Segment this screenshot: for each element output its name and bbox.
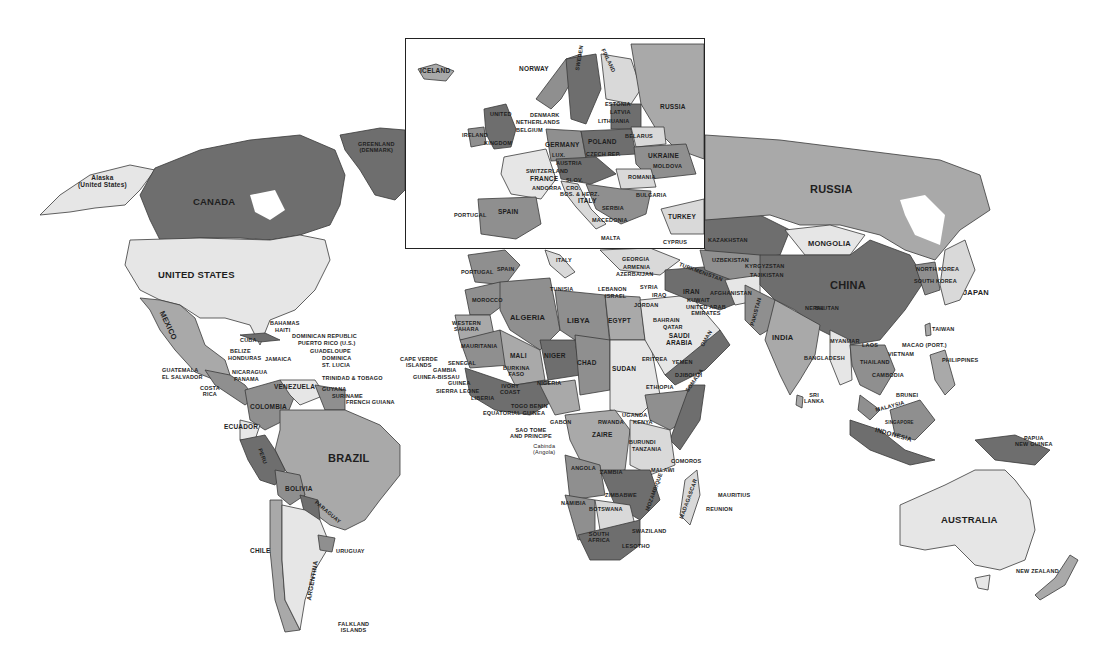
label-sri-lanka-2: LANKA	[804, 399, 824, 405]
label-iraq: IRAQ	[652, 293, 667, 299]
label-yemen: YEMEN	[672, 360, 693, 366]
label-bahrain: BAHRAIN	[653, 318, 680, 324]
label-swaziland: SWAZILAND	[632, 529, 667, 535]
label-ivory-coast: IVORY COAST	[500, 384, 520, 395]
label-inset-ukraine: UKRAINE	[648, 153, 679, 160]
label-chile: CHILE	[250, 548, 271, 555]
label-inset-iceland: ICELAND	[420, 68, 450, 75]
label-syria: SYRIA	[640, 285, 658, 291]
label-india: INDIA	[772, 334, 793, 342]
label-ecuador: ECUADOR	[224, 424, 258, 431]
label-sao-tome: SAO TOME AND PRINCIPE	[510, 428, 552, 439]
label-inset-ireland: IRELAND	[462, 133, 488, 139]
label-namibia: NAMIBIA	[561, 501, 586, 507]
inset-baltics	[611, 104, 641, 129]
label-guatemala: GUATEMALA	[162, 368, 199, 374]
label-saudi-arabia: SAUDI ARABIA	[666, 333, 692, 346]
label-gabon: GABON	[550, 420, 571, 426]
region-sri-lanka	[796, 395, 803, 408]
label-canada: CANADA	[193, 197, 235, 207]
label-uzbekistan: UZBEKISTAN	[712, 258, 749, 264]
label-inset-latvia: LATVIA	[610, 110, 631, 116]
label-malawi: MALAWI	[651, 468, 675, 474]
label-chad: CHAD	[577, 360, 597, 367]
label-mali: MALI	[510, 353, 527, 360]
label-kazakhstan: KAZAKHSTAN	[708, 238, 748, 244]
label-inset-andorra: ANDORRA	[532, 186, 562, 192]
label-inset-slovenia: SLOV.	[566, 178, 583, 184]
label-burundi: BURUNDI	[629, 440, 656, 446]
label-equatorial-guinea: EQUATORIAL GUINEA	[483, 411, 545, 417]
label-spain: SPAIN	[497, 267, 514, 273]
label-colombia: COLOMBIA	[250, 404, 287, 411]
label-inset-bulgaria: BULGARIA	[636, 193, 667, 199]
label-inset-macedonia: MACEDONIA	[592, 218, 628, 224]
label-egypt: EGYPT	[608, 318, 631, 325]
label-tunisia: TUNISIA	[550, 287, 573, 293]
label-rwanda: RWANDA	[598, 420, 624, 426]
label-bhutan: BHUTAN	[815, 306, 839, 312]
label-inset-germany: GERMANY	[545, 142, 580, 149]
label-south-africa-2: AFRICA	[588, 538, 610, 544]
label-dominican-republic: DOMINICAN REPUBLIC	[292, 334, 357, 340]
label-algeria: ALGERIA	[510, 314, 545, 322]
label-bangladesh: BANGLADESH	[804, 356, 845, 362]
label-south-korea: SOUTH KOREA	[914, 279, 957, 285]
label-greenland: GREENLAND (DENMARK)	[358, 142, 395, 153]
label-inset-netherlands: NETHERLANDS	[516, 120, 560, 126]
label-togo-benin: TOGO BENIN	[511, 404, 548, 410]
label-puerto-rico: PUERTO RICO (U.S.)	[298, 341, 356, 347]
label-honduras: HONDURAS	[228, 356, 261, 362]
label-alaska-sub: (United States)	[78, 182, 127, 189]
label-bolivia: BOLIVIA	[285, 486, 313, 493]
label-alaska: Alaska (United States)	[78, 175, 127, 188]
region-niger	[540, 340, 580, 380]
label-myanmar: MYANMAR	[830, 339, 860, 345]
label-inset-italy: ITALY	[578, 198, 597, 205]
label-qatar: QATAR	[663, 325, 683, 331]
label-mauritius: MAURITIUS	[718, 493, 750, 499]
label-lesotho: LESOTHO	[622, 544, 650, 550]
label-senegal: SENEGAL	[448, 361, 476, 367]
label-inset-moldova: MOLDOVA	[653, 164, 682, 170]
label-united-states: UNITED STATES	[158, 270, 235, 280]
label-inset-france: FRANCE	[530, 176, 558, 183]
label-south-africa: SOUTH AFRICA	[588, 532, 610, 543]
label-australia: AUSTRALIA	[941, 515, 998, 525]
label-singapore: SINGAPORE	[885, 421, 914, 426]
label-nicaragua: NICARAGUA	[232, 370, 267, 376]
label-eritrea: ERITREA	[642, 357, 668, 363]
label-inset-denmark: DENMARK	[530, 113, 560, 119]
region-alaska	[40, 165, 155, 215]
label-falkland: FALKLAND ISLANDS	[338, 622, 369, 633]
label-inset-belarus: BELARUS	[625, 134, 653, 140]
label-botswana: BOTSWANA	[589, 507, 623, 513]
label-israel: ISRAEL	[605, 294, 626, 300]
label-armenia: ARMENIA	[623, 265, 650, 271]
region-new-zealand	[1035, 555, 1078, 600]
label-portugal: PORTUGAL	[461, 270, 493, 276]
label-inset-cyprus: CYPRUS	[663, 240, 687, 246]
label-guinea: GUINEA	[448, 381, 471, 387]
label-inset-estonia: ESTONIA	[605, 102, 631, 108]
label-china: CHINA	[830, 280, 866, 291]
region-taiwan	[925, 323, 931, 336]
label-western-sahara-2: SAHARA	[452, 327, 481, 333]
label-guyana: GUYANA	[322, 387, 347, 393]
label-afghanistan: AFGHANISTAN	[710, 291, 752, 297]
label-georgia: GEORGIA	[622, 257, 649, 263]
label-saudi-2: ARABIA	[666, 340, 692, 347]
label-inset-czech: CZECH REP.	[586, 152, 621, 158]
label-inset-norway: NORWAY	[519, 66, 549, 73]
label-sierra-leone: SIERRA LEONE	[436, 389, 479, 395]
label-inset-lithuania: LITHUANIA	[598, 119, 629, 125]
label-gambia: GAMBIA	[433, 368, 457, 374]
label-inset-lux: LUX.	[552, 153, 565, 159]
label-st-lucia: ST. LUCIA	[322, 363, 350, 369]
label-western-sahara: WESTERN SAHARA	[452, 321, 481, 332]
label-azerbaijan: AZERBAIJAN	[616, 272, 653, 278]
label-trinidad: TRINIDAD & TOBAGO	[322, 376, 383, 382]
label-zaire: ZAIRE	[592, 432, 613, 439]
label-inset-belgium: BELGIUM	[516, 128, 543, 134]
label-el-salvador: EL SALVADOR	[162, 375, 203, 381]
